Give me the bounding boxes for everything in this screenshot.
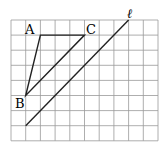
label-c: C <box>86 22 96 37</box>
label-a: A <box>25 22 34 37</box>
label-b: B <box>15 96 25 111</box>
label-line-l: ℓ <box>127 6 132 22</box>
